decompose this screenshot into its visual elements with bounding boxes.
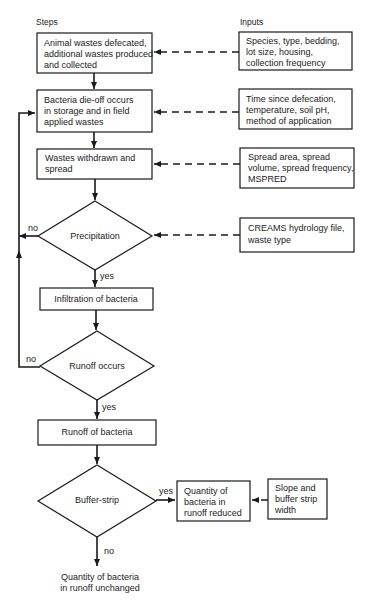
loop-up-arrowhead <box>16 250 22 258</box>
buffer-yes-label: yes <box>159 486 174 496</box>
svg-text:lot size, housing,: lot size, housing, <box>246 47 313 57</box>
svg-text:method of application: method of application <box>246 116 332 126</box>
svg-text:spread: spread <box>45 164 73 174</box>
step-infiltration: Infiltration of bacteria <box>40 288 153 310</box>
svg-text:Species, type, bedding,: Species, type, bedding, <box>246 36 340 46</box>
step-animal-wastes: Animal wastes defecated, additional wast… <box>37 33 153 73</box>
svg-text:and collected: and collected <box>44 60 97 70</box>
input-buffer: Slope and buffer strip width <box>268 479 327 519</box>
svg-text:Time since defecation,: Time since defecation, <box>246 94 336 104</box>
svg-text:waste type: waste type <box>247 235 291 245</box>
svg-text:Precipitation: Precipitation <box>70 231 120 241</box>
svg-text:width: width <box>274 505 296 515</box>
svg-text:CREAMS hydrology file,: CREAMS hydrology file, <box>248 223 345 233</box>
buffer-no-label: no <box>104 546 114 556</box>
svg-text:MSPRED: MSPRED <box>248 174 287 184</box>
svg-text:Quantity of bacteria: Quantity of bacteria <box>61 572 139 582</box>
input-spread: Spread area, spread volume, spread frequ… <box>240 148 354 188</box>
svg-text:Spread area, spread: Spread area, spread <box>248 152 330 162</box>
decision-precipitation: Precipitation <box>38 201 152 270</box>
svg-text:Quantity of: Quantity of <box>184 486 228 496</box>
svg-text:Animal wastes defecated,: Animal wastes defecated, <box>44 38 147 48</box>
svg-text:applied wastes: applied wastes <box>44 117 104 127</box>
inputs-header: Inputs <box>240 17 263 27</box>
svg-text:in runoff unchanged: in runoff unchanged <box>60 583 139 593</box>
svg-text:collection frequency: collection frequency <box>246 58 326 68</box>
flowchart: Steps Inputs Animal wastes defecated, ad… <box>0 0 370 603</box>
step-runoff-of-bacteria: Runoff of bacteria <box>38 420 156 445</box>
step-wastes-withdrawn: Wastes withdrawn and spread <box>37 149 152 179</box>
svg-text:volume, spread frequency,: volume, spread frequency, <box>248 163 353 173</box>
runoff-yes-label: yes <box>102 402 117 412</box>
svg-text:Slope and: Slope and <box>275 483 316 493</box>
svg-text:temperature, soil pH,: temperature, soil pH, <box>246 105 330 115</box>
decision-runoff-occurs: Runoff occurs <box>40 331 154 400</box>
svg-text:Buffer-strip: Buffer-strip <box>75 495 119 505</box>
runoff-no-label: no <box>26 354 36 364</box>
svg-text:buffer strip: buffer strip <box>275 494 317 504</box>
steps-header: Steps <box>36 17 58 27</box>
svg-text:Infiltration of bacteria: Infiltration of bacteria <box>54 294 138 304</box>
precip-no-label: no <box>28 223 38 233</box>
input-precip: CREAMS hydrology file, waste type <box>240 218 354 252</box>
step-bacteria-die-off: Bacteria die-off occurs in storage and i… <box>37 90 152 132</box>
svg-text:Bacteria die-off occurs: Bacteria die-off occurs <box>44 95 134 105</box>
svg-text:Runoff occurs: Runoff occurs <box>69 361 125 371</box>
decision-buffer-strip: Buffer-strip <box>38 465 156 537</box>
input-animal: Species, type, bedding, lot size, housin… <box>239 32 352 70</box>
svg-text:additional wastes produced: additional wastes produced <box>44 49 153 59</box>
svg-text:runoff reduced: runoff reduced <box>184 508 242 518</box>
input-dieoff: Time since defecation, temperature, soil… <box>239 89 352 129</box>
terminal-quantity-unchanged: Quantity of bacteria in runoff unchanged <box>60 572 139 593</box>
svg-text:bacteria in: bacteria in <box>184 497 226 507</box>
svg-text:in storage and in field: in storage and in field <box>44 106 130 116</box>
precip-yes-label: yes <box>100 271 115 281</box>
svg-text:Runoff of bacteria: Runoff of bacteria <box>62 427 133 437</box>
step-quantity-reduced: Quantity of bacteria in runoff reduced <box>177 481 250 521</box>
svg-text:Wastes withdrawn and: Wastes withdrawn and <box>45 153 135 163</box>
